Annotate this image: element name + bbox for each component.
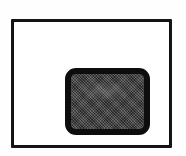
dithered-gray-fill: [71, 74, 144, 129]
icon-canvas: [0, 0, 186, 156]
outer-rectangular-frame: [11, 19, 172, 148]
rounded-rectangle-glyph: [65, 68, 150, 135]
